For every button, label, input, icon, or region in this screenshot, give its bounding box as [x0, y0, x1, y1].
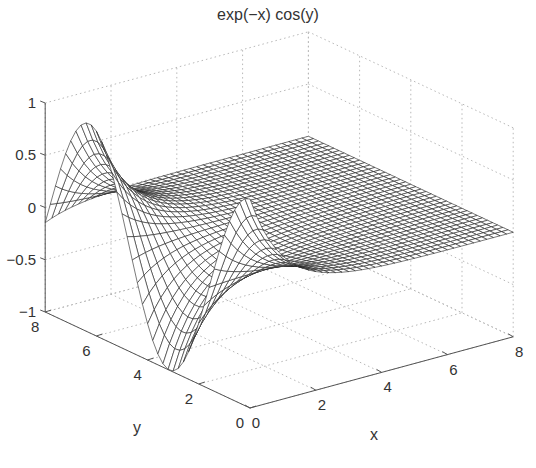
- z-tick-label: −0.5: [7, 251, 37, 268]
- x-tick-label: 8: [515, 343, 523, 360]
- z-tick-label: 1: [28, 94, 36, 111]
- y-tick-label: 2: [185, 390, 193, 407]
- y-tick-label: 8: [31, 318, 39, 335]
- x-tick-label: 2: [318, 396, 326, 413]
- y-tick-label: 4: [133, 366, 141, 383]
- x-tick-label: 0: [252, 414, 260, 431]
- y-tick-label: 6: [82, 342, 90, 359]
- x-tick-label: 6: [449, 361, 457, 378]
- z-tick-label: 0: [28, 199, 36, 216]
- surface-mesh: [45, 123, 513, 371]
- y-tick-label: 0: [236, 414, 244, 431]
- z-tick-label: 0.5: [15, 146, 36, 163]
- mesh-plot: 0246802468−1−0.500.51 x y: [0, 0, 536, 468]
- z-tick-label: −1: [19, 303, 36, 320]
- y-axis-label: y: [133, 419, 141, 436]
- x-tick-label: 4: [383, 378, 391, 395]
- x-axis-label: x: [370, 426, 378, 443]
